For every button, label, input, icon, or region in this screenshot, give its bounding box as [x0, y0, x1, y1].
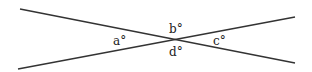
diagram-canvas: a° b° c° d°	[0, 0, 312, 72]
intersecting-lines-figure: a° b° c° d°	[0, 0, 312, 72]
angle-label-b: b°	[169, 22, 183, 36]
angle-label-d: d°	[169, 45, 183, 59]
angle-label-c: c°	[213, 34, 226, 48]
line-ascending	[18, 17, 295, 69]
line-descending	[20, 9, 295, 63]
angle-label-a: a°	[113, 34, 126, 48]
